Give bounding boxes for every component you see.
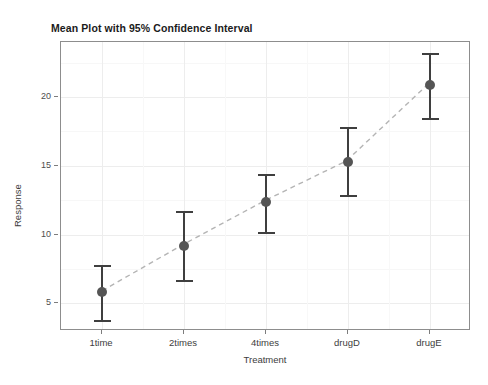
errorbar-cap-upper — [258, 174, 275, 176]
errorbar-cap-lower — [258, 232, 275, 234]
errorbar-cap-upper — [176, 211, 193, 213]
x-tick-mark — [183, 330, 184, 334]
x-axis: 1time2times4timesdrugDdrugE Treatment — [60, 330, 470, 385]
data-point-marker[interactable] — [425, 80, 435, 90]
x-tick-mark — [429, 330, 430, 334]
y-axis: Response 5101520 — [0, 41, 60, 330]
y-tick-label: 10 — [41, 229, 51, 239]
y-tick-mark — [54, 165, 58, 166]
errorbar-cap-lower — [340, 195, 357, 197]
x-tick-mark — [347, 330, 348, 334]
y-axis-title: Response — [12, 184, 23, 227]
errorbar-cap-lower — [94, 320, 111, 322]
errorbar-cap-lower — [422, 118, 439, 120]
errorbar-cap-upper — [340, 127, 357, 129]
chart-title: Mean Plot with 95% Confidence Interval — [51, 22, 253, 34]
y-tick-mark — [54, 96, 58, 97]
errorbar-cap-lower — [176, 280, 193, 282]
x-tick-label: 1time — [89, 337, 112, 348]
plot-panel — [60, 41, 470, 330]
data-point-marker[interactable] — [261, 197, 271, 207]
x-tick-label: drugD — [334, 337, 360, 348]
data-point-marker[interactable] — [179, 241, 189, 251]
errorbar-cap-upper — [94, 265, 111, 267]
x-axis-title: Treatment — [60, 354, 470, 365]
data-point-marker[interactable] — [343, 157, 353, 167]
x-tick-mark — [101, 330, 102, 334]
chart-figure: Mean Plot with 95% Confidence Interval R… — [0, 0, 488, 385]
errorbar-cap-upper — [422, 53, 439, 55]
y-tick-mark — [54, 302, 58, 303]
y-tick-mark — [54, 234, 58, 235]
y-tick-label: 20 — [41, 91, 51, 101]
x-tick-label: 2times — [169, 337, 197, 348]
y-tick-label: 5 — [46, 297, 51, 307]
y-tick-label: 15 — [41, 160, 51, 170]
x-tick-label: drugE — [416, 337, 441, 348]
x-tick-mark — [265, 330, 266, 334]
x-tick-label: 4times — [251, 337, 279, 348]
